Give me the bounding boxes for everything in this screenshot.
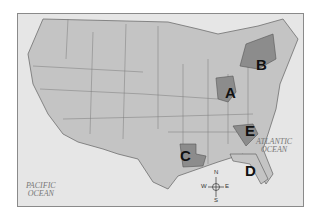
compass-s: S [214, 197, 218, 203]
ocean-text: OCEAN [256, 146, 292, 154]
pacific-ocean-label: PACIFIC OCEAN [26, 182, 56, 198]
label-d: D [245, 162, 256, 179]
compass-n: N [214, 169, 218, 175]
atlantic-ocean-label: ATLANTIC OCEAN [256, 138, 292, 154]
ocean-text: OCEAN [26, 190, 56, 198]
us-map: A B C D E ATLANTIC OCEAN PACIFIC OCEAN N… [17, 13, 304, 207]
label-b: B [256, 56, 267, 73]
compass-w: W [201, 183, 207, 189]
label-a: A [225, 84, 236, 101]
map-graphic [18, 14, 303, 206]
compass-rose-icon: N S E W [201, 171, 231, 203]
label-e: E [245, 122, 255, 139]
label-c: C [180, 147, 191, 164]
compass-e: E [225, 183, 229, 189]
